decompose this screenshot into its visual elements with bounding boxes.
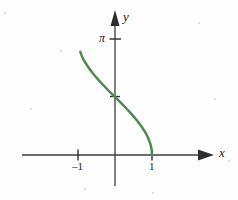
x-axis-label: x xyxy=(219,146,225,159)
arccos-graph-figure: x y π –1 1 xyxy=(0,0,238,200)
y-axis-label: y xyxy=(123,10,129,23)
neg-one-tick-label: –1 xyxy=(72,161,83,172)
one-tick-label: 1 xyxy=(149,161,155,172)
plot-canvas xyxy=(0,0,238,200)
pi-tick-label: π xyxy=(99,32,105,44)
x-axis-arrowhead xyxy=(198,150,214,161)
arccos-curve xyxy=(80,52,152,155)
y-axis-arrowhead xyxy=(111,10,120,26)
